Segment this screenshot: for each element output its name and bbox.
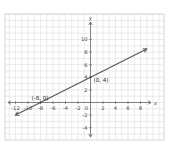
y-tick-label: -2 [82,112,87,118]
y-tick-label: 2 [84,87,87,93]
x-tick-label: -12 [11,105,19,111]
x-tick-label: -8 [38,105,43,111]
point-label: (0, 4) [94,77,109,83]
x-tick-label: 8 [139,105,142,111]
point-label: (-8, 0) [32,95,49,101]
y-tick-label: 10 [81,36,88,42]
x-tick-label: 6 [126,105,129,111]
y-tick-label: 6 [84,62,87,68]
x-tick-label: -6 [50,105,55,111]
x-tick-label: -2 [75,105,80,111]
origin-label: 0 [85,105,88,111]
x-tick-label: -4 [63,105,69,111]
y-tick-label: 8 [84,49,87,55]
y-tick-label: -4 [82,125,88,131]
x-tick-label: 2 [101,105,104,111]
coordinate-plane: xy -12-10-8-6-4-22468108642-2-40 (-8, 0)… [0,0,169,144]
